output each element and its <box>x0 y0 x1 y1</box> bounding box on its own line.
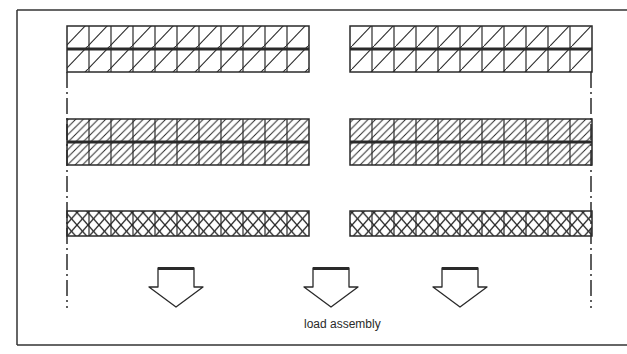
down-arrow-icon <box>433 268 487 307</box>
row-cross-hatch-right-block <box>350 211 592 236</box>
load-assembly-diagram <box>0 0 627 354</box>
load-arrows <box>149 268 487 307</box>
row-sparse-hatch-right-block <box>350 26 592 72</box>
down-arrow-icon <box>149 268 203 307</box>
load-assembly-label: load assembly <box>304 317 381 331</box>
row-cross-hatch-left-block <box>67 211 309 236</box>
row-sparse-hatch-left-block <box>67 26 309 72</box>
row-dense-hatch-left-block <box>67 119 309 165</box>
row-dense-hatch-right-block <box>350 119 592 165</box>
cell-grid <box>67 26 592 236</box>
down-arrow-icon <box>304 268 358 307</box>
